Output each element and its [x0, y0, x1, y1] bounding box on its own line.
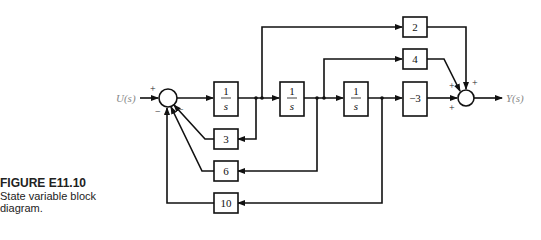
- figure-number: FIGURE E11.10: [0, 176, 110, 190]
- input-sum-sign-fb3: −: [178, 104, 184, 115]
- gain-2-label: 2: [412, 21, 418, 33]
- gain-6-label: 6: [223, 165, 229, 177]
- input-sum-sign-fb10: −: [155, 106, 161, 117]
- gain-neg3-label: −3: [409, 92, 421, 104]
- input-sum-sign-fb6: −: [164, 108, 170, 119]
- output-sum-sign-from-2: +: [472, 77, 478, 88]
- integrator-3-denominator: s: [354, 100, 358, 112]
- integrator-2-denominator: s: [290, 100, 294, 112]
- input-summing-junction: [159, 89, 177, 107]
- integrator-2-numerator: 1: [289, 85, 295, 97]
- figure-description: State variable block diagram.: [0, 190, 110, 214]
- output-signal-label: Y(s): [506, 92, 524, 105]
- output-sum-sign-from-neg3: +: [449, 102, 455, 113]
- input-sum-sign-plus: +: [150, 83, 156, 94]
- integrator-3-numerator: 1: [353, 85, 359, 97]
- input-signal-label: U(s): [116, 92, 136, 105]
- gain-4-label: 4: [412, 53, 418, 65]
- output-sum-sign-from-4: +: [449, 80, 455, 91]
- gain-3-label: 3: [223, 133, 229, 145]
- output-summing-junction: [458, 90, 474, 106]
- integrator-1-numerator: 1: [223, 85, 229, 97]
- gain-10-label: 10: [221, 197, 233, 209]
- integrator-1-denominator: s: [224, 100, 228, 112]
- figure-caption: FIGURE E11.10 State variable block diagr…: [0, 176, 110, 214]
